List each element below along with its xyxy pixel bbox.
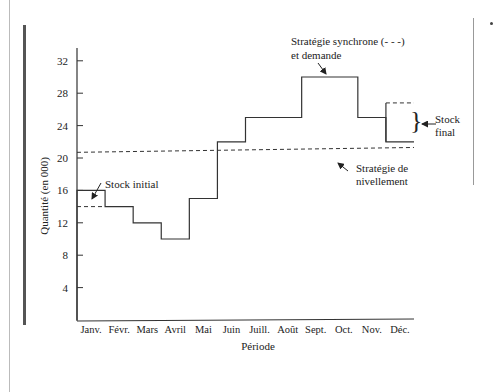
x-tick-label: Juill. xyxy=(249,324,270,335)
y-axis-label: Quantité (en 000) xyxy=(38,157,51,235)
annotation-synchrone-line2: et demande xyxy=(291,49,342,61)
x-axis xyxy=(77,319,414,321)
annotation-nivellement-line1: Stratégie de xyxy=(356,162,408,174)
brace-stock-final: } xyxy=(410,106,422,135)
series-nivellement xyxy=(77,147,414,152)
x-tick-label: Avril xyxy=(165,324,186,335)
annotation-stock-initial: Stock initial xyxy=(105,178,158,190)
annotation-nivellement-line2: nivellement xyxy=(356,175,408,187)
x-tick-label: Janv. xyxy=(80,324,101,335)
annotation-stock-final-line1: Stock xyxy=(435,113,461,125)
y-tick-label: 12 xyxy=(57,217,68,229)
x-tick-label: Juin xyxy=(223,324,241,335)
y-tick-label: 32 xyxy=(57,55,68,67)
chart: 48121620242832 Janv.Févr.MarsAvrilMaiJui… xyxy=(0,0,493,392)
y-tick-label: 28 xyxy=(57,87,69,99)
arrow-synchrone xyxy=(318,63,326,74)
y-tick-label: 16 xyxy=(57,184,69,196)
annotation-stock-final-line2: final xyxy=(435,126,455,138)
x-tick-label: Oct. xyxy=(335,324,353,335)
y-tick-label: 20 xyxy=(57,152,69,164)
x-axis-label: Période xyxy=(241,340,275,352)
series-synchrone-demande xyxy=(77,77,414,320)
y-tick-label: 8 xyxy=(63,249,69,261)
annotation-synchrone-line1: Stratégie synchrone (- - -) xyxy=(291,35,405,48)
x-tick-label: Août xyxy=(277,324,298,335)
x-tick-label: Déc. xyxy=(390,324,410,335)
y-tick-label: 4 xyxy=(63,282,69,294)
x-tick-label: Mai xyxy=(195,324,212,335)
x-tick-label: Sept. xyxy=(305,324,326,335)
arrow-nivellement xyxy=(338,163,348,171)
y-tick-label: 24 xyxy=(57,120,69,132)
x-tick-label: Nov. xyxy=(362,324,382,335)
x-tick-label: Févr. xyxy=(108,324,129,335)
x-tick-label: Mars xyxy=(136,324,158,335)
